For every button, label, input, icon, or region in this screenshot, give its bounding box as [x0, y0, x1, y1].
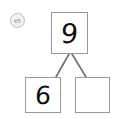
connector-right-line — [72, 54, 86, 77]
number-bond-part-left-value: 6 — [34, 83, 52, 108]
worksheet-canvas: k5 9 6 — [0, 0, 127, 119]
number-bond-whole-box[interactable]: 9 — [51, 12, 88, 54]
number-bond-whole-value: 9 — [60, 20, 79, 47]
number-bond-part-left-box[interactable]: 6 — [25, 77, 61, 113]
number-bond-part-right-box[interactable] — [75, 77, 110, 113]
connector-left-line — [56, 54, 69, 77]
